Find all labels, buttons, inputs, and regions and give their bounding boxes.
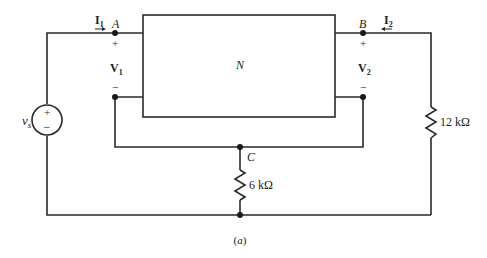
label-node-a: A bbox=[111, 17, 120, 31]
label-i1: I1 bbox=[95, 13, 104, 29]
v2-plus: + bbox=[360, 37, 366, 49]
label-node-c: C bbox=[247, 150, 256, 164]
label-v1: V1 bbox=[110, 61, 123, 77]
wire-v1-minus-to-c bbox=[115, 97, 240, 147]
wire-b-to-load bbox=[335, 33, 431, 107]
resistor-6k bbox=[235, 170, 245, 200]
resistor-12k bbox=[426, 107, 436, 138]
wire-v2-minus-to-c bbox=[240, 97, 363, 147]
source-label: vs bbox=[22, 113, 32, 130]
label-network: N bbox=[235, 58, 245, 72]
node-ground bbox=[237, 212, 243, 218]
v1-plus: + bbox=[112, 37, 118, 49]
source-minus: − bbox=[44, 120, 51, 134]
node-v1-minus bbox=[112, 94, 118, 100]
source-plus: + bbox=[44, 106, 50, 118]
circuit-diagram: + − vs A B C I1 I2 + V1 − + V2 − N 12 kΩ… bbox=[0, 0, 487, 258]
v2-minus: − bbox=[360, 81, 366, 93]
label-node-b: B bbox=[359, 17, 367, 31]
label-i2: I2 bbox=[384, 13, 393, 29]
node-c bbox=[237, 144, 243, 150]
label-resistor-12k: 12 kΩ bbox=[440, 115, 470, 129]
wire-source-to-a bbox=[47, 33, 143, 104]
node-v2-minus bbox=[360, 94, 366, 100]
figure-caption: (a) bbox=[234, 234, 247, 247]
label-resistor-6k: 6 kΩ bbox=[249, 178, 273, 192]
label-v2: V2 bbox=[358, 61, 371, 77]
v1-minus: − bbox=[112, 81, 118, 93]
